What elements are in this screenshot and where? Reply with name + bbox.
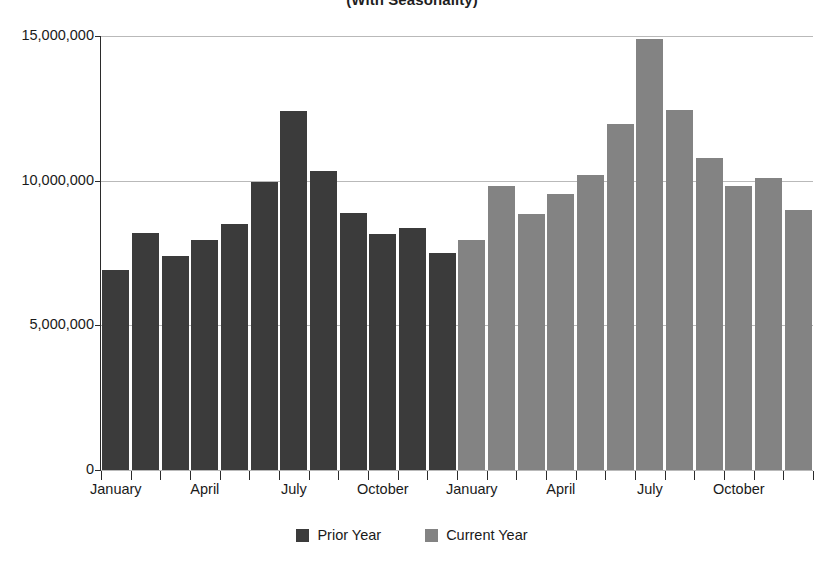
- y-axis-tick-mark: [95, 36, 101, 37]
- x-axis-tick-label: October: [333, 481, 433, 498]
- bar: [636, 39, 663, 470]
- bar: [221, 224, 248, 470]
- x-axis-tick-label: April: [155, 481, 255, 498]
- legend-item[interactable]: Current Year: [425, 527, 527, 543]
- bar: [785, 210, 812, 470]
- x-axis-tick-label: July: [600, 481, 700, 498]
- x-axis-tick-mark: [694, 471, 695, 480]
- bar: [191, 240, 218, 470]
- x-axis-tick-mark: [546, 471, 547, 480]
- bar: [696, 158, 723, 470]
- gridline: [101, 36, 813, 37]
- x-axis-tick-mark: [309, 471, 310, 480]
- x-axis-tick-mark: [783, 471, 784, 480]
- bar: [340, 213, 367, 471]
- bar: [577, 175, 604, 470]
- bar: [429, 253, 456, 470]
- x-axis-tick-mark: [635, 471, 636, 480]
- x-axis-tick-mark: [665, 471, 666, 480]
- bar: [607, 124, 634, 470]
- bar: [280, 111, 307, 470]
- x-axis-tick-mark: [427, 471, 428, 480]
- y-axis-tick-label: 5,000,000: [29, 317, 94, 332]
- legend-label: Current Year: [446, 527, 527, 543]
- x-axis-tick-mark: [249, 471, 250, 480]
- x-axis-tick-mark: [605, 471, 606, 480]
- legend-item[interactable]: Prior Year: [296, 527, 381, 543]
- x-axis-tick-mark: [487, 471, 488, 480]
- x-axis-tick-mark: [338, 471, 339, 480]
- x-axis-tick-mark: [457, 471, 458, 480]
- y-axis-tick-label: 10,000,000: [21, 173, 94, 188]
- x-axis-tick-mark: [724, 471, 725, 480]
- x-axis-tick-label: January: [422, 481, 522, 498]
- chart-legend: Prior YearCurrent Year: [0, 527, 824, 543]
- bar: [755, 178, 782, 470]
- y-axis-tick-mark: [95, 325, 101, 326]
- chart-title: (With Seasonality): [0, 0, 824, 8]
- legend-swatch-icon: [296, 529, 309, 542]
- x-axis-tick-mark: [160, 471, 161, 480]
- y-axis-tick-mark: [95, 470, 101, 471]
- plot-area: [101, 36, 813, 470]
- y-axis-tick-label: 15,000,000: [21, 28, 94, 43]
- bar: [369, 234, 396, 470]
- x-axis-tick-mark: [516, 471, 517, 480]
- x-axis-tick-label: April: [511, 481, 611, 498]
- x-axis-tick-mark: [368, 471, 369, 480]
- x-axis-tick-mark: [190, 471, 191, 480]
- x-axis-tick-label: October: [689, 481, 789, 498]
- x-axis-tick-mark: [754, 471, 755, 480]
- x-axis-tick-mark: [279, 471, 280, 480]
- x-axis-tick-mark: [131, 471, 132, 480]
- y-axis-tick-label: 0: [86, 462, 94, 477]
- x-axis-tick-mark: [576, 471, 577, 480]
- legend-label: Prior Year: [317, 527, 381, 543]
- legend-swatch-icon: [425, 529, 438, 542]
- bar: [132, 233, 159, 470]
- x-axis-tick-mark: [813, 471, 814, 480]
- seasonality-bar-chart: (With Seasonality) 05,000,00010,000,0001…: [0, 0, 824, 566]
- bar: [399, 228, 426, 470]
- bar: [102, 270, 129, 470]
- bar: [251, 182, 278, 470]
- x-axis-tick-label: July: [244, 481, 344, 498]
- bar: [458, 240, 485, 470]
- bar: [666, 110, 693, 470]
- x-axis-tick-mark: [101, 471, 102, 480]
- x-axis-tick-label: January: [66, 481, 166, 498]
- x-axis-tick-mark: [398, 471, 399, 480]
- bar: [162, 256, 189, 470]
- bar: [725, 186, 752, 470]
- x-axis-tick-mark: [220, 471, 221, 480]
- bar: [547, 194, 574, 470]
- bar: [488, 186, 515, 470]
- bar: [310, 171, 337, 470]
- bar: [518, 214, 545, 470]
- y-axis-tick-mark: [95, 181, 101, 182]
